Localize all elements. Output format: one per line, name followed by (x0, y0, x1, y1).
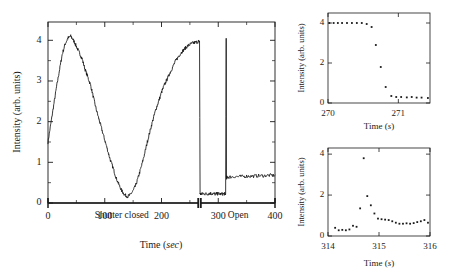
inset_top-data-point (411, 96, 413, 98)
inset_top-data-point (333, 22, 335, 24)
inset_top-data-point (416, 97, 418, 99)
inset_bottom-data-point (406, 222, 408, 224)
inset_bottom-y-tick-label: 2 (320, 189, 325, 199)
main-plot-svg: 0100200300400 01234 Shutter closed Open … (0, 0, 290, 272)
inset-top-y-tick-labels: 024 (320, 17, 325, 107)
main-y-tick-marks (48, 40, 275, 203)
annotation-shutter-closed: Shutter closed (95, 210, 149, 220)
main-data-trace (48, 35, 275, 198)
inset_bottom-data-point (370, 204, 372, 206)
inset_top-data-point (361, 22, 363, 24)
inset_top-data-point (337, 22, 339, 24)
main-x-tick-label: 0 (46, 210, 51, 221)
inset_bottom-data-point (349, 229, 351, 231)
inset-top-panel: 270271 024 Intensity (arb. units) Time (… (290, 0, 451, 134)
inset_top-data-point (329, 22, 331, 24)
inset_bottom-data-point (341, 229, 343, 231)
main-x-axis-title: Time (sec) (140, 239, 183, 251)
inset_top-data-point (366, 23, 368, 25)
inset-bottom-x-axis-title-close: ) (391, 258, 394, 268)
inset_top-data-point (375, 44, 377, 46)
inset-top-x-tick-marks (328, 13, 398, 103)
main-x-axis-unit: sec (166, 239, 179, 250)
inset-bottom-x-tick-labels: 314315316 (321, 241, 437, 251)
inset_bottom-data-point (356, 226, 358, 228)
main-x-tick-label: 200 (154, 210, 169, 221)
inset_bottom-data-point (427, 222, 429, 224)
inset_bottom-data-point (402, 223, 404, 225)
inset_top-data-point (371, 26, 373, 28)
inset_top-data-point (406, 97, 408, 99)
inset_bottom-data-point (423, 219, 425, 221)
main-plot-panel: 0100200300400 01234 Shutter closed Open … (0, 0, 290, 272)
inset_bottom-x-tick-label: 314 (321, 241, 335, 251)
inset_top-y-tick-label: 2 (320, 57, 325, 67)
inset_bottom-data-point (409, 223, 411, 225)
main-y-tick-labels: 01234 (37, 34, 42, 208)
inset_top-data-point (427, 97, 429, 99)
inset-top-y-axis-title: Intensity (arb. units) (296, 23, 306, 92)
inset_bottom-x-tick-label: 316 (423, 241, 437, 251)
main-x-tick-label: 300 (211, 210, 226, 221)
inset-bottom-x-axis-title: Time (s) (364, 258, 394, 268)
inset_top-data-point (395, 96, 397, 98)
inset-bottom-data-points (334, 157, 429, 231)
inset_bottom-data-point (377, 218, 379, 220)
main-y-tick-label: 1 (37, 156, 42, 167)
inset-bottom-y-tick-labels: 024 (320, 148, 325, 240)
inset_bottom-data-point (374, 213, 376, 215)
main-y-axis-title: Intensity (arb. units) (11, 71, 23, 152)
inset-bottom-svg: 314315316 024 Intensity (arb. units) Tim… (290, 134, 451, 272)
annotation-open: Open (228, 210, 249, 220)
inset-top-x-axis-title: Time (s) (364, 121, 394, 131)
inset_top-x-tick-label: 271 (392, 108, 406, 118)
inset_bottom-data-point (381, 218, 383, 220)
inset_bottom-x-tick-label: 315 (372, 241, 386, 251)
inset_top-data-point (356, 22, 358, 24)
inset-bottom-x-tick-marks (328, 148, 430, 236)
inset-bottom-frame (328, 148, 430, 236)
main-x-tick-label: 400 (268, 210, 283, 221)
inset_top-data-point (421, 97, 423, 99)
inset_top-y-tick-label: 4 (320, 17, 325, 27)
inset_top-y-tick-label: 0 (320, 97, 325, 107)
inset_bottom-data-point (399, 223, 401, 225)
inset_bottom-data-point (352, 225, 354, 227)
inset-bottom-panel: 314315316 024 Intensity (arb. units) Tim… (290, 134, 451, 272)
inset_top-data-point (380, 66, 382, 68)
inset-top-y-tick-marks (328, 23, 430, 103)
figure-root: 0100200300400 01234 Shutter closed Open … (0, 0, 451, 272)
inset-bottom-y-axis-title: Intensity (arb. units) (296, 157, 306, 226)
inset_top-x-tick-label: 270 (321, 108, 335, 118)
inset-top-frame (328, 13, 430, 103)
inset-top-x-tick-labels: 270271 (321, 108, 405, 118)
main-y-tick-label: 4 (37, 34, 42, 45)
inset_bottom-data-point (388, 219, 390, 221)
inset_bottom-data-point (334, 227, 336, 229)
inset_bottom-data-point (384, 219, 386, 221)
main-y-tick-label: 3 (37, 74, 42, 85)
inset_bottom-data-point (363, 157, 365, 159)
inset-top-x-axis-title-text: Time ( (364, 121, 388, 131)
main-y-tick-label: 0 (37, 196, 42, 207)
inset_top-data-point (400, 96, 402, 98)
inset-bottom-y-tick-marks (328, 154, 430, 236)
inset_top-data-point (341, 22, 343, 24)
inset-bottom-x-axis-title-text: Time ( (364, 258, 388, 268)
main-x-axis-title-close: ) (179, 239, 182, 251)
inset_bottom-data-point (345, 229, 347, 231)
inset_bottom-data-point (391, 220, 393, 222)
inset_bottom-data-point (366, 195, 368, 197)
inset_top-data-point (351, 22, 353, 24)
inset-top-data-points (329, 22, 429, 99)
inset-top-svg: 270271 024 Intensity (arb. units) Time (… (290, 0, 451, 134)
inset_bottom-data-point (420, 220, 422, 222)
main-y-tick-label: 2 (37, 115, 42, 126)
inset_top-data-point (390, 95, 392, 97)
inset_bottom-data-point (395, 222, 397, 224)
inset_bottom-data-point (338, 229, 340, 231)
inset_bottom-data-point (413, 222, 415, 224)
inset_bottom-y-tick-label: 4 (320, 148, 325, 158)
inset_top-data-point (346, 22, 348, 24)
inset-top-x-axis-title-close: ) (391, 121, 394, 131)
